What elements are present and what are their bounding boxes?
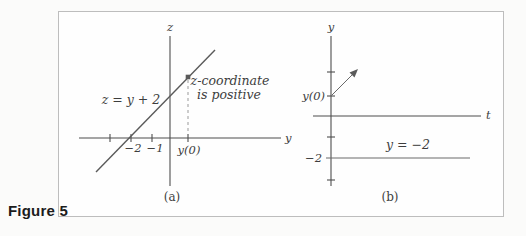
equation-label: z = y + 2 — [101, 92, 160, 107]
y0-label: y(0) — [301, 89, 325, 103]
t-axis-label: t — [486, 108, 491, 122]
direction-arrow-shaft — [331, 73, 354, 96]
tick-label-y0: y(0) — [177, 143, 201, 157]
panel-b-caption: (b) — [381, 190, 398, 204]
y-axis-b-label: y — [327, 20, 335, 34]
panel-b: y t y(0) −2 y = −2 (b) — [301, 20, 491, 204]
y-axis-label: y — [284, 131, 292, 145]
solution-line-label: y = −2 — [385, 137, 430, 152]
tick-label-minus1: −1 — [147, 141, 164, 155]
tick-label-minus2: −2 — [125, 141, 142, 155]
figure-canvas: z y −2 −1 y(0) z = y + 2 z-coordinate is… — [0, 0, 526, 236]
tick-label-b-minus2: −2 — [305, 151, 322, 165]
z-axis-label: z — [166, 20, 174, 34]
figure-page: Figure 5 z y −2 −1 y(0) z = y + 2 — [0, 0, 526, 236]
annotation-line2: is positive — [197, 87, 261, 102]
point-marker — [186, 75, 191, 80]
annotation-line1: z-coordinate — [190, 73, 270, 88]
panel-a: z y −2 −1 y(0) z = y + 2 z-coordinate is… — [79, 20, 292, 204]
panel-a-caption: (a) — [164, 190, 181, 204]
